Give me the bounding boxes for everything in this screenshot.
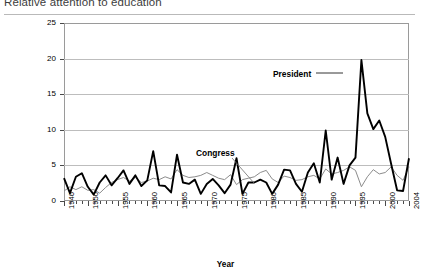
- x-tick-mark: [88, 201, 89, 206]
- y-tick-label: 25: [34, 18, 56, 27]
- x-tick-mark: [76, 201, 77, 204]
- x-tick-mark: [308, 201, 309, 204]
- y-tick-label: 20: [34, 54, 56, 63]
- x-tick-mark: [237, 201, 238, 206]
- x-tick-mark: [272, 201, 273, 204]
- page-title: Relative attention to education: [4, 0, 162, 8]
- x-tick-mark: [254, 201, 255, 204]
- x-tick-mark: [403, 201, 404, 204]
- x-tick-mark: [106, 201, 107, 204]
- x-tick-mark: [332, 201, 333, 204]
- x-tick-mark: [355, 201, 356, 206]
- plot-area: 0510152025 19461950195519601965197019751…: [64, 23, 409, 201]
- x-tick-mark: [213, 201, 214, 204]
- x-tick-mark: [153, 201, 154, 204]
- x-axis-title: Year: [14, 260, 423, 269]
- x-tick-mark: [326, 201, 327, 206]
- x-tick-mark: [397, 201, 398, 204]
- x-tick-mark: [189, 201, 190, 204]
- x-tick-mark: [278, 201, 279, 204]
- x-tick-mark: [165, 201, 166, 204]
- x-tick-mark: [373, 201, 374, 204]
- x-tick-mark: [201, 201, 202, 204]
- x-tick-mark: [344, 201, 345, 204]
- x-tick-mark: [361, 201, 362, 204]
- y-tick-label: 10: [34, 125, 56, 134]
- title-divider: [4, 14, 415, 15]
- x-tick-mark: [129, 201, 130, 204]
- x-tick-mark: [242, 201, 243, 204]
- x-tick-label: 2004: [412, 192, 421, 209]
- x-tick-mark: [231, 201, 232, 204]
- chart-page: Relative attention to education Percenta…: [0, 0, 423, 277]
- x-tick-mark: [141, 201, 142, 204]
- x-tick-mark: [183, 201, 184, 204]
- x-tick-mark: [195, 201, 196, 204]
- x-tick-mark: [284, 201, 285, 204]
- x-tick-mark: [207, 201, 208, 206]
- x-tick-mark: [367, 201, 368, 204]
- y-tick-label: 15: [34, 89, 56, 98]
- x-tick-mark: [296, 201, 297, 206]
- x-tick-mark: [379, 201, 380, 204]
- x-tick-mark: [248, 201, 249, 204]
- annotation-president: President: [273, 69, 311, 79]
- x-tick-mark: [64, 201, 65, 206]
- x-tick-mark: [94, 201, 95, 204]
- x-tick-mark: [260, 201, 261, 204]
- x-tick-mark: [70, 201, 71, 204]
- x-tick-mark: [225, 201, 226, 204]
- x-tick-mark: [391, 201, 392, 204]
- annotation-congress: Congress: [196, 148, 235, 158]
- x-tick-mark: [320, 201, 321, 204]
- x-tick-mark: [112, 201, 113, 204]
- x-tick-mark: [219, 201, 220, 204]
- x-tick-mark: [159, 201, 160, 204]
- x-tick-mark: [171, 201, 172, 204]
- series-layer: [64, 23, 409, 201]
- y-tick-label: 5: [34, 160, 56, 169]
- x-tick-mark: [385, 201, 386, 206]
- x-tick-mark: [177, 201, 178, 206]
- x-tick-mark: [314, 201, 315, 204]
- x-tick-mark: [302, 201, 303, 204]
- x-tick-mark: [82, 201, 83, 204]
- x-tick-mark: [290, 201, 291, 204]
- x-tick-mark: [123, 201, 124, 204]
- x-tick-mark: [409, 201, 410, 206]
- x-tick-mark: [100, 201, 101, 204]
- x-tick-mark: [135, 201, 136, 204]
- x-tick-mark: [350, 201, 351, 204]
- x-tick-mark: [118, 201, 119, 206]
- x-tick-mark: [266, 201, 267, 206]
- y-tick-label: 0: [34, 196, 56, 205]
- x-tick-mark: [338, 201, 339, 204]
- x-tick-mark: [147, 201, 148, 206]
